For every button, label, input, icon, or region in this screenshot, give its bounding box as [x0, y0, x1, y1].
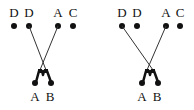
top-label: D: [132, 5, 141, 20]
junction-block: [145, 69, 149, 73]
junction-block: [38, 69, 42, 73]
connector-line: [122, 26, 153, 70]
junction-block: [44, 69, 48, 73]
top-label: A: [161, 5, 171, 20]
bottom-node: [48, 80, 54, 86]
top-label: A: [53, 5, 63, 20]
connector-line: [40, 26, 58, 70]
top-node: [134, 23, 140, 29]
diagram-left: D D A C A B: [9, 5, 77, 104]
bottom-label: B: [153, 89, 162, 104]
top-label: D: [9, 5, 18, 20]
junction-block: [151, 69, 155, 73]
top-node: [70, 23, 76, 29]
top-node: [11, 23, 17, 29]
top-label: D: [117, 5, 126, 20]
diagram-right: D D A C A B: [117, 5, 184, 104]
bottom-label: A: [137, 89, 147, 104]
bottom-label: A: [30, 89, 40, 104]
diagram-canvas: D D A C A B D D A C A B: [0, 0, 194, 110]
top-label: C: [176, 5, 185, 20]
top-label: D: [24, 5, 33, 20]
connector-line: [29, 26, 46, 70]
bottom-node: [32, 80, 38, 86]
top-label: C: [69, 5, 78, 20]
connector-line: [147, 26, 166, 70]
bottom-label: B: [46, 89, 55, 104]
bottom-node: [155, 80, 161, 86]
top-node: [177, 23, 183, 29]
bottom-node: [139, 80, 145, 86]
